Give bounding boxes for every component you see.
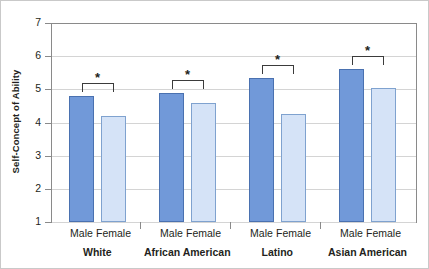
x-axis-group-separator <box>140 222 141 229</box>
y-tick-label: 4 <box>15 116 41 128</box>
x-tick-label-female: Female <box>91 227 137 239</box>
bar-african-american-female <box>191 103 216 222</box>
significance-asterisk: * <box>181 70 195 79</box>
group-label-asian-american: Asian American <box>328 246 407 258</box>
y-tick-mark <box>45 123 52 124</box>
x-tick-label-female: Female <box>271 227 317 239</box>
x-axis-group-separator <box>230 222 231 229</box>
bar-asian-american-female <box>371 88 396 222</box>
x-axis-group-separator <box>320 222 321 229</box>
y-tick-mark <box>45 23 52 24</box>
y-tick-label: 5 <box>15 82 41 94</box>
y-tick-label: 1 <box>15 215 41 227</box>
group-label-white: White <box>83 246 112 258</box>
y-tick-mark <box>45 222 52 223</box>
y-tick-mark <box>45 156 52 157</box>
gridline <box>51 222 416 223</box>
group-label-african-american: African American <box>144 246 231 258</box>
y-tick-label: 2 <box>15 182 41 194</box>
y-tick-mark <box>45 89 52 90</box>
y-tick-mark <box>45 189 52 190</box>
x-tick-label-female: Female <box>361 227 407 239</box>
bar-asian-american-male <box>339 69 364 222</box>
bar-latino-female <box>281 114 306 222</box>
bar-white-male <box>69 96 94 222</box>
x-tick-label-female: Female <box>181 227 227 239</box>
bar-chart: Self-Concept of Ability 7654321 **** Mal… <box>0 0 429 269</box>
plot-top-border <box>51 23 417 24</box>
y-tick-label: 7 <box>15 16 41 28</box>
significance-asterisk: * <box>271 55 285 64</box>
y-tick-label: 6 <box>15 49 41 61</box>
y-tick-label: 3 <box>15 149 41 161</box>
y-tick-mark <box>45 56 52 57</box>
bar-latino-male <box>249 78 274 222</box>
plot-right-border <box>416 23 417 223</box>
significance-asterisk: * <box>91 73 105 82</box>
bar-african-american-male <box>159 93 184 222</box>
significance-asterisk: * <box>361 46 375 55</box>
group-label-latino: Latino <box>262 246 294 258</box>
bar-white-female <box>101 116 126 222</box>
